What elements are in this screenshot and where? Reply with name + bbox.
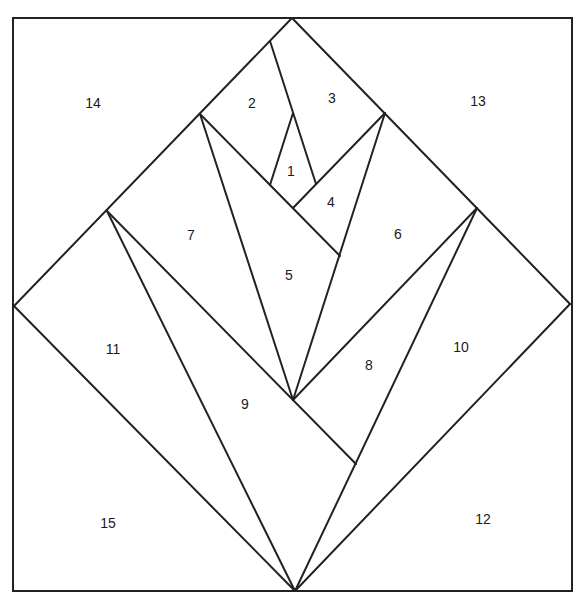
seam-11-9 (107, 211, 295, 591)
patch-label-5: 5 (285, 267, 293, 283)
patch-label-14: 14 (85, 95, 101, 111)
patch-label-9: 9 (241, 396, 249, 412)
patch-label-8: 8 (365, 357, 373, 373)
patch-label-10: 10 (453, 339, 469, 355)
diamond-bottom-left (14, 306, 295, 591)
diamond-top-left (14, 18, 292, 306)
patch-labels: 123456789101112131415 (85, 90, 491, 531)
seam-10-8 (295, 208, 477, 591)
patch-label-13: 13 (470, 93, 486, 109)
seam-3-4 (293, 113, 385, 208)
patch-label-15: 15 (100, 515, 116, 531)
diamond-top-right (292, 18, 570, 304)
patch-label-1: 1 (287, 163, 295, 179)
patch-label-6: 6 (394, 226, 402, 242)
patch-label-4: 4 (327, 194, 335, 210)
seam-7-9 (107, 211, 356, 464)
patch-label-3: 3 (328, 90, 336, 106)
patch-label-2: 2 (248, 95, 256, 111)
seam-2-5 (200, 114, 340, 256)
quilt-pattern-diagram: 123456789101112131415 (0, 0, 584, 601)
patch-label-11: 11 (106, 341, 121, 357)
diamond-bottom-right (295, 304, 570, 591)
patch-label-7: 7 (187, 227, 195, 243)
patch-label-12: 12 (475, 511, 491, 527)
